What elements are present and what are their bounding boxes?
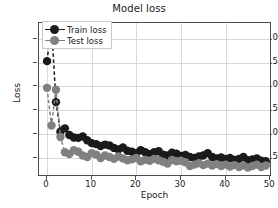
legend-item-test-loss: Test loss	[45, 35, 107, 46]
x-tick-label: 20	[120, 179, 150, 189]
x-axis-label: Epoch	[38, 190, 271, 200]
x-tick-label: 30	[165, 179, 195, 189]
chart-figure: Model loss Loss Epoch 0.51.01.52.02.53.0…	[0, 0, 278, 208]
y-tick-mark	[33, 157, 37, 158]
x-tick-label: 0	[31, 179, 61, 189]
data-point	[47, 121, 55, 129]
data-point	[56, 133, 64, 141]
data-point	[52, 98, 60, 106]
y-tick-mark	[33, 38, 37, 39]
y-tick-mark	[33, 85, 37, 86]
y-tick-mark	[33, 109, 37, 110]
y-tick-mark	[33, 133, 37, 134]
legend-item-train-loss: Train loss	[45, 24, 107, 35]
data-point	[43, 84, 51, 92]
data-point	[52, 86, 60, 94]
x-tick-label: 10	[76, 179, 106, 189]
legend-marker-train-loss	[45, 24, 65, 35]
data-point	[43, 57, 51, 65]
x-tick-label: 50	[254, 179, 278, 189]
chart-legend: Train loss Test loss	[42, 21, 112, 49]
legend-label-test-loss: Test loss	[65, 36, 103, 46]
gridline-vertical	[270, 23, 271, 175]
y-axis-label: Loss	[12, 63, 22, 123]
x-tick-label: 40	[210, 179, 240, 189]
legend-label-train-loss: Train loss	[65, 25, 107, 35]
data-point	[262, 161, 270, 169]
legend-marker-test-loss	[45, 35, 65, 46]
y-tick-mark	[33, 62, 37, 63]
chart-title: Model loss	[0, 3, 278, 14]
